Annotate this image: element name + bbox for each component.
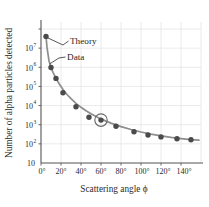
x-tick-labels: 0° 20° 40° 60° 80° 100° 120° 140° [38,167,191,176]
y-tick-label-4-base: 10 [25,102,33,111]
y-tick-label-6-exp: 6 [34,61,37,67]
y-tick-label-5-base: 10 [25,83,33,92]
y-tick-label-2-exp: 2 [34,138,37,144]
data-point [73,104,78,109]
x-tick-label-40: 40° [75,167,86,176]
theory-annotation-label: Theory [70,36,97,46]
x-tick-label-80: 80° [115,167,126,176]
rutherford-scattering-figure: 10 10 2 10 3 10 4 10 5 10 6 10 7 [0,0,209,207]
y-tick-labels: 10 10 2 10 3 10 4 10 5 10 6 10 7 [25,42,37,168]
data-point [48,65,53,70]
x-tick-label-20: 20° [55,167,66,176]
y-tick-label-6-base: 10 [25,64,33,73]
x-tick-label-100: 100° [134,167,149,176]
y-tick-label-3-exp: 3 [34,119,37,125]
data-point-highlighted [98,117,103,122]
y-axis-title: Number of alpha particles detected [4,28,14,158]
y-tick-label-3-base: 10 [25,121,33,130]
chart-svg: 10 10 2 10 3 10 4 10 5 10 6 10 7 [0,0,209,207]
x-tick-label-140: 140° [176,167,191,176]
data-point [60,90,65,95]
x-axis-title: Scattering angle ϕ [80,184,147,194]
y-tick-label-4-exp: 4 [34,99,37,105]
y-tick-label-5-exp: 5 [34,80,37,86]
x-tick-label-120: 120° [155,167,170,176]
data-annotation-label: Data [67,52,84,62]
data-point [131,129,136,134]
data-point [145,132,150,137]
data-point [113,124,118,129]
y-tick-label-7-exp: 7 [34,42,37,48]
data-point [174,136,179,141]
y-tick-label-7-base: 10 [25,44,33,53]
x-tick-label-60: 60° [95,167,106,176]
data-point [188,137,193,142]
y-tick-label-1: 10 [27,159,35,168]
data-point [53,76,58,81]
data-point [158,134,163,139]
x-tick-label-0: 0° [38,167,45,176]
data-point [86,115,91,120]
y-tick-label-2-base: 10 [25,140,33,149]
